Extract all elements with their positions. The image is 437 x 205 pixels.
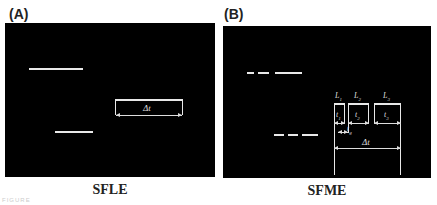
panel-a-diagram: Δt — [5, 23, 215, 177]
panel-a-caption: SFLE — [5, 182, 215, 198]
sfle-pulse-line — [115, 99, 183, 101]
sfme-pulse-3-right — [400, 103, 401, 175]
sfle-delta-t-arrow — [116, 115, 182, 116]
sfme-t3-arrow — [374, 123, 401, 124]
sfme-bottom-seg-2 — [288, 134, 298, 136]
sfme-L2-label: L2 — [354, 92, 361, 104]
sfme-t1-arrow — [334, 123, 345, 124]
panel-b-diagram: L1 L2 L3 t1 t2 t3 tg Δt — [223, 26, 431, 178]
sfme-bottom-seg-3 — [302, 134, 318, 136]
sfme-pulse-1-right — [344, 103, 345, 123]
panel-a-label: (A) — [9, 6, 28, 22]
sfle-emission-line-bottom — [55, 131, 93, 133]
sfme-delta-t-arrow — [334, 148, 401, 149]
sfle-pulse-right-edge — [182, 99, 183, 115]
sfme-top-seg-1 — [247, 72, 254, 74]
sfle-emission-line-top — [29, 68, 83, 70]
panel-b-caption: SFME — [223, 183, 431, 199]
sfme-t2-arrow — [348, 123, 369, 124]
sfme-pulse-1-left — [334, 103, 335, 175]
sfme-top-seg-3 — [275, 72, 302, 74]
sfme-top-seg-2 — [258, 72, 269, 74]
figure-note: FIGURE — [2, 197, 31, 203]
sfme-tg-arrow — [338, 132, 348, 133]
sfme-delta-t-label: Δt — [362, 138, 370, 146]
sfme-t2-label: t2 — [355, 111, 360, 123]
sfme-pulse-3-left — [374, 103, 375, 123]
sfme-t3-label: t3 — [384, 111, 389, 123]
sfle-delta-t-label: Δt — [143, 104, 151, 112]
sfme-pulse-2-right — [368, 103, 369, 123]
panel-b-label: (B) — [224, 6, 243, 22]
sfme-bottom-seg-1 — [274, 134, 284, 136]
sfme-L3-label: L3 — [383, 92, 390, 104]
sfme-L1-label: L1 — [335, 92, 342, 104]
